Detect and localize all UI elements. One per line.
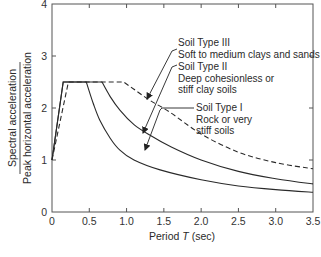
x-tick-label: 1.5 [157,215,172,227]
y-tick-label: 0 [41,206,47,218]
leader-arrow-soil-type-iii [147,49,177,99]
annotation-soil-type-ii: Soil Type II Deep cohesionless or stiff … [178,61,277,95]
y-tick-label: 1 [41,154,47,166]
y-axis-denominator: Peak horizontal acceleration [21,52,33,184]
y-tick-label: 3 [41,50,47,62]
x-axis-title: Period T (sec) [149,230,215,242]
x-tick-labels: 00.51.01.52.02.53.03.5 [49,215,320,227]
curve-soil-type-iii [52,82,313,169]
y-tick-label: 4 [41,0,47,10]
x-tick-label: 1.0 [119,215,134,227]
x-tick-label: 0.5 [82,215,97,227]
y-axis-numerator: Spectral acceleration [6,69,18,167]
x-tick-label: 2.0 [194,215,209,227]
leader-arrow-soil-type-i [145,108,194,150]
y-tick-label: 2 [41,102,47,114]
y-axis-title: Spectral acceleration Peak horizontal ac… [6,52,33,184]
x-tick-label: 2.5 [231,215,246,227]
annotation-soil-type-iii: Soil Type III Soft to medium clays and s… [178,37,320,60]
x-tick-label: 3.5 [306,215,321,227]
response-spectrum-chart: 00.51.01.52.02.53.03.5 01234 Soil Type I… [0,0,321,257]
x-tick-label: 0 [49,215,55,227]
annotation-soil-type-i: Soil Type I Rock or very stiff soils [196,102,255,136]
x-tick-label: 3.0 [268,215,283,227]
y-tick-labels: 01234 [41,0,47,218]
curve-soil-type-i [52,82,313,192]
